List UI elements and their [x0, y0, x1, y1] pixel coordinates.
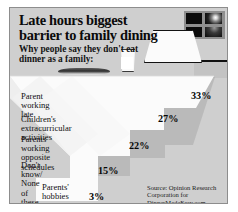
bar-value: 27% [158, 113, 178, 124]
bar-value: 22% [129, 140, 149, 151]
bar-value: 33% [191, 90, 211, 101]
infographic-panel: Late hours biggest barrier to family din… [9, 7, 228, 204]
bar-value: 15% [98, 165, 118, 176]
page-title: Late hours biggest barrier to family din… [19, 13, 169, 42]
bar-value: 3% [89, 191, 104, 202]
source-credit: Source: Opinion Research Corporation for… [147, 184, 227, 204]
page-subtitle: Why people say they don't eat dinner as … [19, 44, 143, 65]
bar-label: Parents' hobbies or leisure activities [42, 183, 73, 204]
bar-label: Don't know/ None of these [21, 161, 42, 204]
